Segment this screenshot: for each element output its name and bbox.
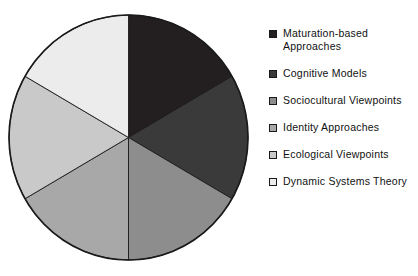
legend-item-label: Ecological Viewpoints xyxy=(283,148,389,161)
chart-legend: Maturation-based Approaches Cognitive Mo… xyxy=(269,27,418,188)
legend-swatch-icon xyxy=(269,178,277,186)
legend-item-sociocultural-viewpoints[interactable]: Sociocultural Viewpoints xyxy=(269,94,418,107)
legend-item-label: Dynamic Systems Theory xyxy=(283,175,407,188)
legend-item-ecological-viewpoints[interactable]: Ecological Viewpoints xyxy=(269,148,418,161)
legend-swatch-icon xyxy=(269,70,277,78)
legend-item-maturation-based-approaches[interactable]: Maturation-based Approaches xyxy=(269,27,418,53)
legend-item-dynamic-systems-theory[interactable]: Dynamic Systems Theory xyxy=(269,175,418,188)
pie-chart-figure: Maturation-based Approaches Cognitive Mo… xyxy=(0,0,418,276)
legend-item-identity-approaches[interactable]: Identity Approaches xyxy=(269,121,418,134)
legend-swatch-icon xyxy=(269,97,277,105)
pie-slice-group xyxy=(9,15,248,260)
legend-item-cognitive-models[interactable]: Cognitive Models xyxy=(269,67,418,80)
legend-item-label: Cognitive Models xyxy=(283,67,367,80)
legend-swatch-icon xyxy=(269,124,277,132)
pie-chart-plot xyxy=(8,14,249,261)
pie-svg xyxy=(8,14,249,261)
legend-swatch-icon xyxy=(269,30,277,38)
legend-item-label: Sociocultural Viewpoints xyxy=(283,94,402,107)
legend-item-label: Maturation-based Approaches xyxy=(283,27,368,53)
legend-item-label: Identity Approaches xyxy=(283,121,379,134)
legend-swatch-icon xyxy=(269,151,277,159)
